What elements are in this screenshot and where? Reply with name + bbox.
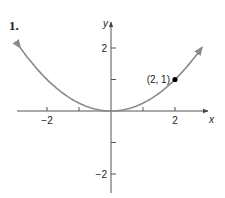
parabola-graph: −22−22xy (2, 1) [0,0,225,198]
axes: −22−22xy [17,18,215,193]
x-tick-label: 2 [172,115,178,126]
y-axis-label: y [102,18,109,29]
x-tick-label: −2 [41,115,53,126]
x-axis-label: x [208,114,215,125]
point-label: (2, 1) [147,74,170,85]
point-marker [172,77,177,82]
points-group: (2, 1) [147,74,178,85]
y-tick-label: 2 [101,43,107,54]
y-tick-label: −2 [96,169,108,180]
